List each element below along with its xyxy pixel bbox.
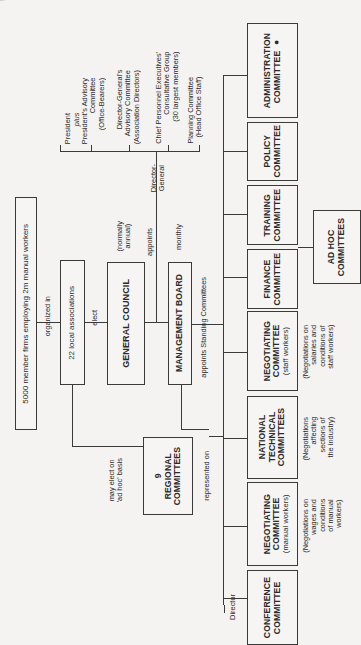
conference-committee-box: CONFERENCE COMMITTEE (247, 570, 298, 645)
board-to-represented-hline (181, 429, 209, 430)
normally-annual-note: (normally annual) (112, 214, 136, 258)
appoints-standing-committees-label: appoints Standing Committees (196, 262, 212, 392)
finance-committee-box: FINANCE COMMITTEE (247, 249, 298, 309)
dg-support-dg-advisory: Director-General's Advisory Committee (A… (116, 20, 154, 144)
director-general-label: Director- General (146, 154, 170, 202)
dg-tick-1 (60, 145, 61, 152)
represented-to-trunk-line (209, 436, 223, 437)
negotiating-committee-staff-box: NEGOTIATING COMMITTEE (staff workers) (247, 311, 298, 391)
elect-label: elect (88, 306, 102, 330)
page-edge-artifact (0, 0, 138, 1)
neg-staff-note: (Negotiations on salaries and conditions… (302, 312, 342, 392)
training-committee-box: TRAINING COMMITTEE (247, 185, 298, 245)
branch-conference (223, 598, 247, 599)
dg-support-planning: Planning Committee (Head Office Staff) (187, 60, 213, 144)
national-technical-committees-box: NATIONAL TECHNICAL COMMITTEES (247, 396, 298, 479)
monthly-note: monthly (172, 218, 186, 256)
branch-finance (223, 277, 247, 278)
dg-tick-2 (91, 145, 92, 152)
associations-to-regional-hline (72, 446, 143, 447)
organized-in-label: organized in (40, 290, 56, 342)
administration-committee-box: ADMINISTRATION COMMITTEE ● (247, 23, 298, 118)
ad-hoc-committees-box: AD HOC COMMITTEES (313, 210, 361, 284)
dg-tick-3 (129, 145, 130, 152)
negotiating-committee-manual-box: NEGOTIATING COMMITTEE (manual workers) (247, 482, 298, 566)
council-to-board-line (145, 322, 168, 323)
management-board-box: MANAGEMENT BOARD (168, 262, 192, 385)
ad-hoc-connector (298, 247, 313, 248)
director-label: Director (226, 585, 240, 629)
associations-to-regional-vline (72, 385, 73, 446)
branch-neg-manual (223, 526, 247, 527)
branch-neg-staff (223, 352, 247, 353)
director-stem (224, 605, 225, 613)
dg-support-presidents-advisory: President's Advisory Committee (Office-B… (81, 50, 117, 144)
branch-national-tech (223, 438, 247, 439)
general-council-box: GENERAL COUNCIL (107, 262, 145, 385)
local-associations-box: 22 local associations (60, 260, 85, 385)
policy-committee-box: POLICY COMMITTEE (247, 122, 298, 181)
branch-training (223, 214, 247, 215)
national-tech-note: (Negotiations affecting sections of the … (302, 398, 342, 480)
neg-manual-note: (Negotiations on wages and conditions of… (302, 487, 352, 565)
represented-on-label: represented on (200, 440, 214, 512)
may-elect-label: may elect on 'ad hoc' basis (104, 452, 128, 508)
member-firms-box: 5000 member firms employing 2m manual wo… (15, 197, 37, 430)
appoints-label: appoints (144, 222, 156, 262)
board-to-represented-vline (181, 385, 182, 429)
dg-tick-4 (168, 145, 169, 152)
branch-policy (223, 151, 247, 152)
dg-tick-5 (199, 145, 200, 152)
branch-admin (223, 75, 247, 76)
regional-committees-box: 9 REGIONAL COMMITTEES (143, 437, 193, 515)
appoints-dg-vline (156, 231, 157, 322)
